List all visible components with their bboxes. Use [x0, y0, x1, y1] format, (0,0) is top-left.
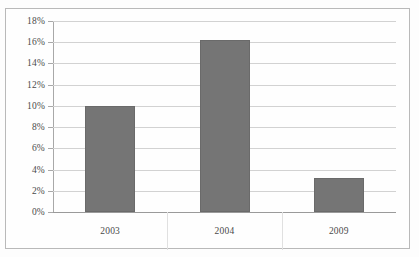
x-axis-label-2009: 2009	[329, 226, 349, 236]
y-axis-tick	[48, 170, 53, 171]
y-axis-tick	[48, 106, 53, 107]
value-axis-line	[53, 21, 54, 212]
x-axis-label-2003: 2003	[100, 226, 120, 236]
y-axis-label: 12%	[27, 80, 45, 90]
y-axis-tick	[48, 127, 53, 128]
y-axis-label: 10%	[27, 101, 45, 111]
y-axis-label: 8%	[32, 122, 45, 132]
category-axis: 200320042009	[53, 212, 396, 250]
bar-2004	[200, 40, 250, 212]
y-axis-tick	[48, 63, 53, 64]
y-axis-tick	[48, 191, 53, 192]
y-axis-label: 2%	[32, 186, 45, 196]
chart-frame: 0%2%4%6%8%10%12%14%16%18% 200320042009	[5, 8, 410, 249]
y-axis-tick	[48, 21, 53, 22]
y-axis-label: 4%	[32, 165, 45, 175]
category-separator	[167, 212, 168, 250]
x-axis-label-2004: 2004	[215, 226, 235, 236]
bar-2009	[314, 178, 364, 212]
bar-2003	[85, 106, 135, 212]
y-axis-tick	[48, 42, 53, 43]
y-axis-tick	[48, 85, 53, 86]
y-axis-label: 18%	[27, 16, 45, 26]
gridline	[53, 21, 396, 22]
y-axis-label: 6%	[32, 143, 45, 153]
plot-area: 0%2%4%6%8%10%12%14%16%18%	[53, 21, 396, 212]
y-axis-tick	[48, 148, 53, 149]
y-axis-label: 14%	[27, 58, 45, 68]
y-axis-label: 0%	[32, 207, 45, 217]
y-axis-label: 16%	[27, 37, 45, 47]
category-separator	[282, 212, 283, 250]
